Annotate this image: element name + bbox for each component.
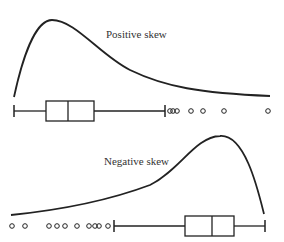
positive-skew-label: Positive skew (106, 28, 167, 40)
positive-skew-boxplot (14, 101, 270, 121)
negative-skew-curve (11, 136, 264, 215)
negative-skew-label: Negative skew (104, 155, 169, 167)
negative-skew-boxplot (10, 216, 265, 236)
